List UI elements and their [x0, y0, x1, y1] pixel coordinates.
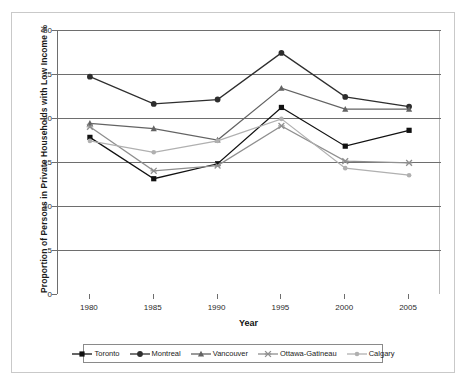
legend-item-vancouver[interactable]: Vancouver	[190, 349, 248, 359]
data-point-marker	[343, 166, 348, 171]
legend-label: Toronto	[94, 349, 119, 358]
x-tick-label: 1985	[133, 303, 173, 312]
data-point-marker	[406, 160, 413, 166]
data-point-marker	[342, 158, 349, 164]
legend-label: Montreal	[152, 349, 181, 358]
x-tick-mark	[280, 294, 281, 299]
y-tick-label: 25	[26, 70, 52, 79]
data-point-marker	[279, 117, 284, 122]
data-point-marker	[88, 139, 93, 144]
y-tick-label: 0	[26, 290, 52, 299]
data-point-marker	[265, 351, 272, 357]
legend-item-toronto[interactable]: Toronto	[71, 349, 119, 359]
data-point-marker	[151, 176, 156, 181]
data-point-marker	[407, 173, 412, 178]
x-tick-mark	[408, 294, 409, 299]
data-point-marker	[343, 144, 348, 149]
x-tick-label: 1980	[69, 303, 109, 312]
data-point-marker	[279, 105, 284, 110]
legend-marker-triangle-icon	[190, 349, 212, 359]
y-tick-label: 10	[26, 202, 52, 211]
series-line	[90, 126, 409, 171]
y-tick-label: 15	[26, 158, 52, 167]
legend-marker-circle-small-icon	[346, 349, 368, 359]
series-montreal	[87, 50, 412, 109]
data-point-marker	[151, 101, 157, 107]
x-axis-title: Year	[57, 318, 440, 328]
data-point-marker	[87, 74, 93, 80]
legend-item-calgary[interactable]: Calgary	[346, 349, 395, 359]
data-point-marker	[278, 123, 285, 129]
data-point-marker	[80, 351, 85, 356]
chart-canvas	[58, 30, 441, 294]
x-tick-label: 2005	[388, 303, 428, 312]
data-point-marker	[406, 128, 411, 133]
data-point-marker	[278, 85, 284, 91]
legend-marker-circle-icon	[129, 349, 151, 359]
y-axis-ticks: 051015202530	[22, 30, 52, 294]
plot-area	[57, 30, 440, 294]
data-point-marker	[342, 94, 348, 100]
y-tick-label: 30	[26, 26, 52, 35]
x-tick-label: 1990	[197, 303, 237, 312]
legend-label: Vancouver	[213, 349, 248, 358]
legend-item-ottawa-gatineau[interactable]: Ottawa-Gatineau	[257, 349, 337, 359]
data-point-marker	[215, 139, 220, 144]
legend-item-montreal[interactable]: Montreal	[129, 349, 181, 359]
series-line	[90, 88, 409, 140]
data-point-marker	[151, 150, 156, 155]
chart-legend: TorontoMontrealVancouverOttawa-GatineauC…	[83, 344, 383, 363]
x-tick-mark	[89, 294, 90, 299]
data-point-marker	[215, 97, 221, 103]
x-tick-mark	[217, 294, 218, 299]
series-line	[90, 53, 409, 107]
data-point-marker	[279, 50, 285, 56]
legend-label: Ottawa-Gatineau	[280, 349, 337, 358]
legend-marker-square-icon	[71, 349, 93, 359]
data-point-marker	[354, 351, 359, 356]
x-tick-mark	[344, 294, 345, 299]
data-point-marker	[150, 168, 157, 174]
legend-marker-x-icon	[257, 349, 279, 359]
x-tick-mark	[153, 294, 154, 299]
series-vancouver	[87, 85, 412, 143]
series-ottawa-gatineau	[87, 123, 413, 174]
legend-label: Calgary	[369, 349, 395, 358]
y-tick-label: 20	[26, 114, 52, 123]
y-tick-label: 5	[26, 246, 52, 255]
x-tick-label: 1995	[260, 303, 300, 312]
data-point-marker	[137, 351, 143, 357]
series-calgary	[88, 117, 412, 178]
chart-page: Proportion of Persons in Private Househo…	[0, 0, 466, 385]
x-tick-label: 2000	[324, 303, 364, 312]
